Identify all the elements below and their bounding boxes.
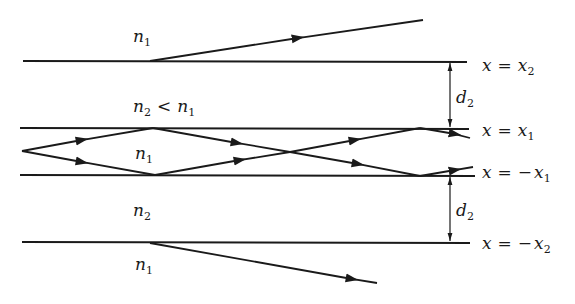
region-label-core: n1 (135, 143, 153, 166)
guided-rays (22, 128, 473, 176)
region-label-top-outer: n1 (133, 26, 151, 49)
region-label-top-cladding: n2<n1 (133, 96, 195, 119)
boundary-line-neg-x1 (20, 175, 475, 176)
dimension-label-bottom: d2 (456, 200, 474, 223)
region-label-bottom-cladding: n2 (133, 200, 151, 223)
escaping-ray-top (150, 20, 423, 61)
boundary-label-x1: x=x1 (482, 120, 534, 143)
waveguide-diagram: n1 n2<n1 n1 n2 n1 d2 d2 x=x2 x=x1 x=−x1 … (0, 0, 575, 304)
escaping-ray-bottom (150, 243, 377, 283)
region-label-bottom-outer: n1 (135, 254, 153, 277)
boundary-line-neg-x2 (22, 242, 470, 243)
boundary-line-x1 (20, 128, 469, 129)
boundary-label-neg-x1: x=−x1 (482, 162, 551, 185)
dimension-label-top: d2 (456, 87, 474, 110)
boundary-label-neg-x2: x=−x2 (482, 233, 551, 256)
boundary-label-x2: x=x2 (482, 55, 534, 78)
boundary-line-x2 (23, 61, 467, 62)
